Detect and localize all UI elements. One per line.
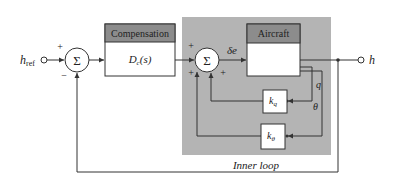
compensation-block: Compensation Dc(s) <box>105 24 175 76</box>
sum1-minus-sign: − <box>61 70 67 81</box>
svg-text:Σ: Σ <box>73 53 81 68</box>
signal-theta: θ <box>313 101 318 112</box>
svg-text:Compensation: Compensation <box>111 28 169 39</box>
svg-text:+: + <box>220 67 226 78</box>
svg-text:Aircraft: Aircraft <box>258 28 290 39</box>
svg-text:+: + <box>188 67 194 78</box>
control-block-diagram: Inner loop href Σ + − Compensation Dc(s)… <box>0 0 395 188</box>
aircraft-block: Aircraft <box>247 24 300 76</box>
sum1-plus-sign: + <box>57 41 63 52</box>
inner-loop-label: Inner loop <box>232 159 280 171</box>
input-label: href <box>20 53 35 68</box>
svg-text:Σ: Σ <box>203 53 211 68</box>
input-terminal <box>41 57 47 63</box>
svg-text:+: + <box>188 40 194 51</box>
ktheta-gain-block: kθ <box>261 124 285 149</box>
signal-q: q <box>316 79 321 90</box>
svg-text:Dc(s): Dc(s) <box>128 53 152 67</box>
signal-delta-e: δe <box>227 44 237 56</box>
output-label: h <box>369 53 375 67</box>
output-terminal <box>358 57 364 63</box>
kq-gain-block: kq <box>263 90 287 113</box>
